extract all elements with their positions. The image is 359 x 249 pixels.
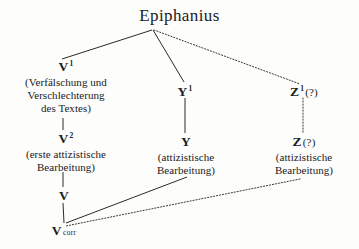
node-vcorr-letter: V (52, 223, 62, 238)
node-y: Y (attizistische Bearbeitung) (138, 134, 234, 177)
node-v2-gloss-line-2: Bearbeitung) (0, 161, 132, 174)
node-v-letter: V (59, 188, 69, 203)
stemma-diagram: Epiphanius V1 (Verfälschung und Verschle… (0, 0, 359, 249)
node-z1-question-mark: (?) (305, 86, 318, 98)
node-z: Z(?) (attizistische Bearbeitung) (250, 134, 358, 177)
node-v1-gloss-line-1: (Verfälschung und (0, 76, 132, 89)
node-z-gloss: (attizistische Bearbeitung) (250, 151, 358, 178)
node-z1: Z1(?) (260, 84, 348, 100)
node-v2-gloss-line-1: (erste attizistische (0, 148, 132, 161)
node-z-gloss-line-1: (attizistische (250, 151, 358, 164)
node-y-gloss-line-2: Bearbeitung) (138, 164, 234, 177)
node-y-letter: Y (181, 134, 191, 149)
node-y1-symbol: Y1 (145, 84, 225, 100)
node-z-gloss-line-2: Bearbeitung) (250, 164, 358, 177)
node-v1-superscript: 1 (70, 59, 74, 68)
node-v1-letter: V (59, 59, 69, 74)
node-vcorr-suffix: corr (63, 228, 76, 237)
node-v2-superscript: 2 (70, 131, 74, 140)
node-y-gloss: (attizistische Bearbeitung) (138, 151, 234, 178)
node-z-letter: Z (292, 134, 301, 149)
node-epiphanius-label: Epiphanius (139, 6, 220, 25)
node-v2-gloss: (erste attizistische Bearbeitung) (0, 148, 132, 175)
node-v2-letter: V (59, 131, 69, 146)
node-y-symbol: Y (138, 134, 234, 150)
node-y1: Y1 (145, 84, 225, 100)
node-v2: V2 (erste attizistische Bearbeitung) (0, 131, 132, 174)
edge-layer (0, 0, 359, 249)
edge-epiphanius-v1 (62, 30, 152, 59)
node-v1-gloss-line-2: Verschlechterung (0, 89, 132, 102)
node-y1-letter: Y (178, 84, 188, 99)
node-v-symbol: V (18, 188, 110, 204)
node-epiphanius: Epiphanius (0, 6, 359, 26)
node-vcorr: Vcorr (18, 223, 110, 239)
edge-v-vcorr (63, 203, 64, 223)
node-v1-symbol: V1 (0, 59, 132, 75)
edge-epiphanius-z1 (154, 30, 300, 84)
node-vcorr-symbol: Vcorr (18, 223, 110, 239)
node-z-symbol: Z(?) (250, 134, 358, 150)
node-z-question-mark: (?) (303, 136, 316, 148)
node-v1-gloss: (Verfälschung und Verschlechterung des T… (0, 76, 132, 116)
node-v2-symbol: V2 (0, 131, 132, 147)
node-z1-letter: Z (290, 84, 299, 99)
node-y-gloss-line-1: (attizistische (138, 151, 234, 164)
node-v: V (18, 188, 110, 204)
node-v1: V1 (Verfälschung und Verschlechterung de… (0, 59, 132, 116)
edge-epiphanius-y1 (153, 30, 184, 82)
node-v1-gloss-line-3: des Textes) (0, 102, 132, 115)
node-z1-symbol: Z1(?) (260, 84, 348, 100)
node-y1-superscript: 1 (189, 84, 193, 93)
node-z1-superscript: 1 (300, 84, 304, 93)
